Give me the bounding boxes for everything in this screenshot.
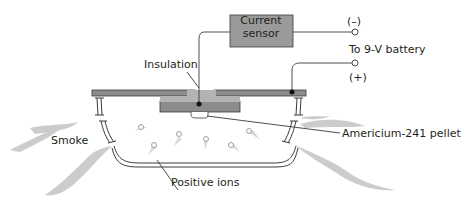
wire-junction-right: [290, 90, 295, 95]
americium-label: Americium-241 pellet: [342, 128, 461, 139]
positive-terminal-label: (+): [349, 72, 367, 83]
insulation-label: Insulation: [144, 59, 198, 70]
positive-ions: [135, 125, 260, 156]
wire-junction-center: [197, 102, 202, 107]
current-sensor-label: Current sensor: [229, 14, 293, 40]
battery-terminal-plus: [352, 60, 358, 66]
battery-terminal-minus: [352, 29, 358, 35]
insulation-fill: [160, 96, 240, 102]
left-plate: [92, 90, 195, 96]
smoke-label: Smoke: [51, 135, 88, 146]
positive-ions-label: Positive ions: [171, 177, 239, 188]
battery-label: To 9-V battery: [349, 44, 426, 55]
negative-terminal-label: (–): [347, 16, 361, 27]
americium-pellet: [191, 112, 208, 118]
